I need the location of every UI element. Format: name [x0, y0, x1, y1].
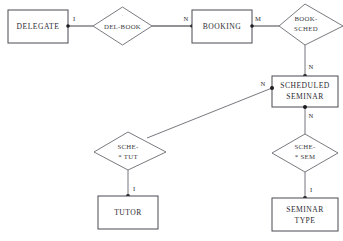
edge-schetut-scheduledseminar — [147, 88, 272, 138]
cardinality-schesem-seminartype: I — [310, 186, 312, 193]
cardinality-schetut-tutor: I — [133, 185, 135, 192]
relationship-del-book-label: DEL-BOOK — [104, 23, 141, 30]
connector-dot-scheduledseminar-bottom — [303, 105, 307, 109]
entity-seminar-type-box[interactable] — [272, 198, 338, 231]
connector-dot-booking-right — [250, 24, 254, 28]
connector-dot-scheduledseminar-left — [270, 86, 274, 90]
entity-scheduled-seminar-label-line1: SCHEDULED — [280, 81, 330, 90]
entity-scheduled-seminar[interactable]: SCHEDULED SEMINAR — [272, 76, 338, 107]
connector-dot-delegate — [66, 24, 70, 28]
relationship-sche-sem-label-line1: SCHE- — [294, 143, 316, 150]
cardinality-delbook-booking: N — [184, 15, 189, 22]
entity-tutor-label: TUTOR — [114, 208, 142, 217]
entity-delegate[interactable]: DELEGATE — [8, 10, 68, 43]
cardinality-booksched-scheduledseminar: N — [309, 63, 314, 70]
relationship-book-sched-label-line2: SCHED — [294, 25, 318, 32]
entity-seminar-type[interactable]: SEMINAR TYPE — [272, 198, 338, 231]
entity-delegate-label: DELEGATE — [17, 22, 60, 31]
connector-lines — [68, 26, 305, 198]
relationship-sche-sem[interactable]: SCHE- * SEM — [272, 134, 338, 172]
entity-seminar-type-label-line1: SEMINAR — [286, 205, 324, 214]
entity-booking-label: BOOKING — [203, 22, 242, 31]
entity-booking[interactable]: BOOKING — [192, 10, 252, 43]
relationship-sche-tut-label-line1: SCHE- — [117, 143, 139, 150]
cardinality-delegate-delbook: I — [73, 15, 75, 22]
relationship-sche-tut-diamond[interactable] — [94, 132, 166, 170]
relationship-del-book-mark: . — [122, 12, 123, 17]
entity-seminar-type-label-line2: TYPE — [295, 216, 316, 225]
entity-tutor[interactable]: TUTOR — [98, 196, 158, 229]
relationship-del-book[interactable]: . DEL-BOOK — [93, 7, 152, 45]
cardinality-schetut-scheduledseminar: N — [261, 80, 266, 87]
cardinality-booking-booksched: M — [255, 15, 261, 22]
cardinality-scheduledseminar-schesem: N — [309, 112, 314, 119]
entity-scheduled-seminar-label-line2: SEMINAR — [286, 92, 324, 101]
relationship-sche-tut[interactable]: SCHE- * TUT — [94, 132, 166, 170]
relationship-book-sched[interactable]: BOOK- SCHED — [279, 4, 343, 45]
relationship-sche-sem-label-line2: * SEM — [295, 153, 316, 160]
er-diagram-canvas: DELEGATE I . DEL-BOOK N BOOKING M BOOK- … — [0, 0, 343, 241]
relationship-book-sched-label-line1: BOOK- — [294, 15, 317, 22]
relationship-sche-tut-label-line2: * TUT — [118, 153, 138, 160]
er-diagram-svg: DELEGATE I . DEL-BOOK N BOOKING M BOOK- … — [0, 0, 343, 241]
